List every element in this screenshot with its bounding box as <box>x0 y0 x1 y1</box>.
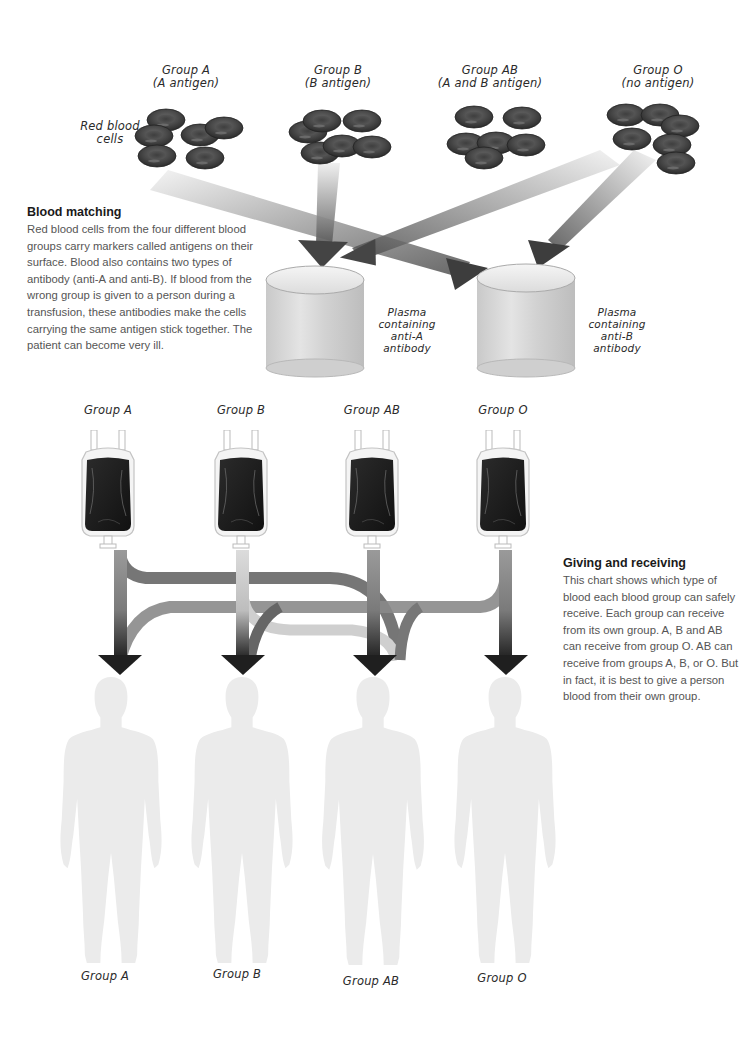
blood-matching-caption: Blood matching Red blood cells from the … <box>27 205 257 354</box>
bag-group-ab <box>346 430 398 548</box>
recipient-silhouettes <box>60 677 555 965</box>
bag-group-b <box>215 430 267 548</box>
person-group-a <box>60 677 161 963</box>
antigen-note: (no antigen) <box>598 77 718 90</box>
bag-label-group-ab: Group AB <box>332 404 412 417</box>
cells-group-a <box>135 109 243 169</box>
compatibility-flows <box>114 550 512 660</box>
recipient-label-group-o: Group O <box>462 972 542 985</box>
giving-receiving-body: This chart shows which type of blood eac… <box>563 572 741 705</box>
plasma-anti-b-cylinder <box>477 264 575 377</box>
antigen-note: (B antigen) <box>278 77 398 90</box>
bag-group-a <box>82 430 134 548</box>
cells-group-ab <box>447 106 545 169</box>
cells-header-group-o: Group O (no antigen) <box>598 64 718 90</box>
plasma-anti-b-label: Plasma containing anti-B antibody <box>582 306 652 354</box>
recipient-label-group-ab: Group AB <box>331 975 411 988</box>
diagram-graphics <box>0 0 746 1037</box>
recipient-label-group-a: Group A <box>65 970 145 983</box>
plasma-anti-a-cylinder <box>266 266 364 377</box>
antigen-note: (A and B antigen) <box>430 77 550 90</box>
person-group-ab <box>322 677 424 965</box>
bag-group-o <box>477 430 529 548</box>
plasma-anti-a-label: Plasma containing anti-A antibody <box>372 306 442 354</box>
blood-bags <box>82 430 529 548</box>
giving-receiving-title: Giving and receiving <box>563 556 741 570</box>
bag-label-group-b: Group B <box>201 404 281 417</box>
antigen-note: (A antigen) <box>126 77 246 90</box>
bag-label-group-a: Group A <box>68 404 148 417</box>
cells-header-group-ab: Group AB (A and B antigen) <box>430 64 550 90</box>
cells-header-group-b: Group B (B antigen) <box>278 64 398 90</box>
blood-matching-body: Red blood cells from the four different … <box>27 221 257 354</box>
cells-group-o <box>607 104 699 174</box>
person-group-o <box>454 677 555 963</box>
cells-header-group-a: Group A (A antigen) <box>126 64 246 90</box>
recipient-arrowheads <box>98 655 528 676</box>
bag-label-group-o: Group O <box>463 404 543 417</box>
cells-group-b <box>289 110 391 164</box>
giving-receiving-caption: Giving and receiving This chart shows wh… <box>563 556 741 705</box>
blood-matching-title: Blood matching <box>27 205 257 219</box>
red-blood-cells-label: Red blood cells <box>80 120 140 146</box>
recipient-label-group-b: Group B <box>197 968 277 981</box>
person-group-b <box>191 677 292 963</box>
